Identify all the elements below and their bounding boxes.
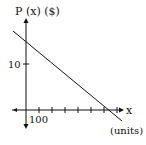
demand-chart: P (x) ($) 10 100 x (units) (0, 0, 146, 145)
y-axis-label: P (x) ($) (15, 5, 60, 18)
x-axis-label: x (126, 104, 133, 117)
price-line (13, 31, 122, 121)
x-units-label: (units) (110, 125, 143, 136)
y-axis-arrow-icon (24, 18, 29, 23)
x-axis-arrow-icon (119, 108, 124, 113)
y-tick-label: 10 (8, 59, 21, 70)
x-tick-label: 100 (29, 114, 48, 125)
x-axis-left-arrow-icon (13, 108, 17, 112)
y-axis-down-arrow-icon (24, 124, 29, 129)
